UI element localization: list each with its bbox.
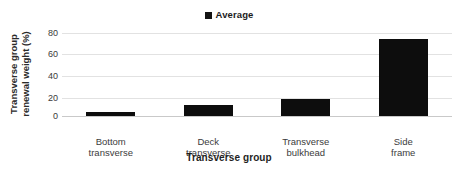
- plot-area: 80 60 40 20 0: [40, 26, 452, 122]
- y-axis-title-line2: renewal weight (%): [19, 31, 30, 117]
- bar-side-frame[interactable]: [379, 39, 428, 116]
- bar-slot: [160, 26, 258, 122]
- bar-deck-transverse[interactable]: [184, 105, 233, 116]
- bar-slot: [257, 26, 355, 122]
- bar-series-average: [62, 26, 452, 122]
- y-tick-label: 20: [48, 94, 58, 103]
- bar-bottom-transverse[interactable]: [86, 112, 135, 116]
- bar-slot: [62, 26, 160, 122]
- bar-chart: Average Transverse group renewal weight …: [0, 0, 458, 176]
- legend-item-average[interactable]: Average: [205, 10, 254, 20]
- bar-slot: [355, 26, 453, 122]
- x-axis-title: Transverse group: [0, 152, 458, 163]
- legend-label: Average: [216, 10, 254, 20]
- bar-transverse-bulkhead[interactable]: [281, 99, 330, 116]
- y-tick-label: 0: [53, 112, 58, 121]
- y-axis-title-line1: Transverse group: [8, 34, 19, 114]
- legend-swatch-icon: [205, 12, 212, 19]
- y-axis-ticks: 80 60 40 20 0: [40, 26, 60, 122]
- y-tick-label: 40: [48, 72, 58, 81]
- y-axis-title: Transverse group renewal weight (%): [6, 26, 32, 122]
- plot-canvas: [62, 26, 452, 122]
- y-tick-label: 80: [48, 29, 58, 38]
- chart-legend: Average: [0, 8, 458, 22]
- y-tick-label: 60: [48, 50, 58, 59]
